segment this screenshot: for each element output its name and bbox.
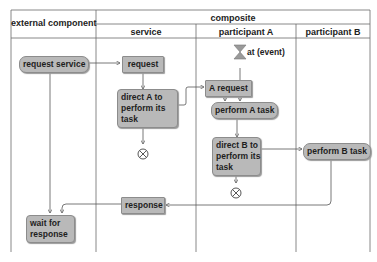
- signal-response[interactable]: response: [121, 197, 165, 214]
- wait-line-2: response: [30, 229, 71, 240]
- direct-b-line-1: direct B to: [216, 140, 257, 151]
- action-direct-b[interactable]: direct B to perform its task: [212, 137, 261, 176]
- direct-b-line-2: perform its: [216, 151, 257, 162]
- signal-a-request[interactable]: A request: [205, 80, 252, 97]
- header-lane-service: service: [96, 27, 196, 37]
- direct-a-line-1: direct A to: [121, 92, 174, 103]
- signal-request[interactable]: request: [122, 56, 164, 73]
- header-lane-participant-b: participant B: [296, 27, 370, 37]
- header-external-component: external component: [11, 18, 96, 28]
- direct-a-line-2: perform its: [121, 103, 174, 114]
- hourglass-event-icon: [234, 45, 246, 59]
- header-lane-participant-a: participant A: [196, 27, 296, 37]
- action-perform-a-task[interactable]: perform A task: [211, 102, 278, 119]
- action-direct-a[interactable]: direct A to perform its task: [117, 89, 178, 128]
- action-request-service[interactable]: request service: [19, 56, 89, 73]
- flow-final-icon: [231, 188, 241, 198]
- action-wait-for-response[interactable]: wait for response: [26, 215, 75, 243]
- flow-arrows: [50, 63, 331, 213]
- wait-line-1: wait for: [30, 218, 71, 229]
- event-label: at (event): [247, 47, 285, 57]
- direct-a-line-3: task: [121, 114, 174, 125]
- header-composite: composite: [96, 13, 370, 23]
- direct-b-line-3: task: [216, 162, 257, 173]
- action-perform-b-task[interactable]: perform B task: [303, 143, 371, 160]
- flow-final-icon: [138, 149, 148, 159]
